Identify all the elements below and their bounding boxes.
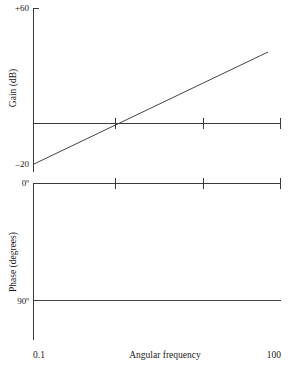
gain-axis-min-label: –20 <box>15 159 30 169</box>
bode-plot-svg: +60 –20 Gain (dB) 0º 90º Phase (degrees)… <box>0 0 292 369</box>
phase-panel: 0º 90º Phase (degrees) <box>8 178 281 340</box>
x-axis-labels: 0.1 Angular frequency 100 <box>33 350 281 360</box>
phase-axis-max-label: 0º <box>22 178 30 188</box>
phase-axis-min-label: 90º <box>17 296 29 306</box>
gain-axis-title: Gain (dB) <box>8 69 19 107</box>
gain-trace <box>34 52 268 164</box>
x-axis-title: Angular frequency <box>129 350 201 360</box>
x-axis-max-label: 100 <box>267 350 282 360</box>
gain-panel: +60 –20 Gain (dB) <box>8 3 281 172</box>
x-axis-min-label: 0.1 <box>33 350 45 360</box>
gain-axis-max-label: +60 <box>15 3 30 13</box>
bode-plot-figure: +60 –20 Gain (dB) 0º 90º Phase (degrees)… <box>0 0 292 369</box>
phase-axis-title: Phase (degrees) <box>8 232 19 292</box>
